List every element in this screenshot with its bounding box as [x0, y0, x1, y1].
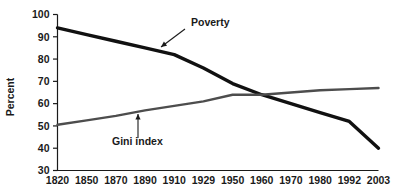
x-axis-tick-label: 1970 — [279, 174, 303, 186]
annotation-arrowhead-gini-index — [135, 114, 140, 120]
x-axis-tick-label: 1870 — [104, 174, 128, 186]
y-axis-tick-labels: 30405060708090100 — [32, 8, 50, 176]
x-axis-tick-label: 1820 — [46, 174, 70, 186]
x-axis-tick-label: 1950 — [221, 174, 245, 186]
x-axis-tick-label: 1960 — [250, 174, 274, 186]
y-axis-tick-label: 70 — [38, 75, 50, 87]
annotation-arrowhead-poverty — [161, 42, 167, 47]
annotation-label-gini-index: Gini index — [112, 135, 163, 147]
x-axis-tick-label: 1929 — [192, 174, 216, 186]
series-line-gini-index — [58, 88, 379, 125]
y-axis-title: Percent — [4, 77, 16, 116]
y-axis-tick-label: 40 — [38, 142, 50, 154]
chart-container: 30405060708090100 1820185018701890191019… — [0, 0, 405, 195]
x-axis-tick-label: 1910 — [163, 174, 187, 186]
y-axis-tick-marks — [53, 15, 58, 171]
x-axis-tick-label: 1992 — [338, 174, 362, 186]
y-axis-tick-label: 80 — [38, 53, 50, 65]
x-axis-tick-label: 2003 — [367, 174, 391, 186]
y-axis-tick-label: 100 — [32, 8, 50, 20]
y-axis-tick-label: 50 — [38, 120, 50, 132]
line-chart: 30405060708090100 1820185018701890191019… — [0, 0, 405, 195]
x-axis-tick-label: 1850 — [75, 174, 99, 186]
x-axis-tick-label: 1980 — [308, 174, 332, 186]
chart-annotations: PovertyGini index — [112, 16, 230, 147]
x-axis-tick-label: 1890 — [133, 174, 157, 186]
y-axis-tick-label: 60 — [38, 97, 50, 109]
y-axis-tick-label: 90 — [38, 31, 50, 43]
y-axis-title-text: Percent — [4, 77, 16, 116]
chart-series-lines — [58, 28, 379, 148]
annotation-label-poverty: Poverty — [191, 16, 230, 28]
series-line-poverty — [58, 28, 379, 148]
x-axis-tick-labels: 1820185018701890191019291950196019701980… — [46, 174, 391, 186]
